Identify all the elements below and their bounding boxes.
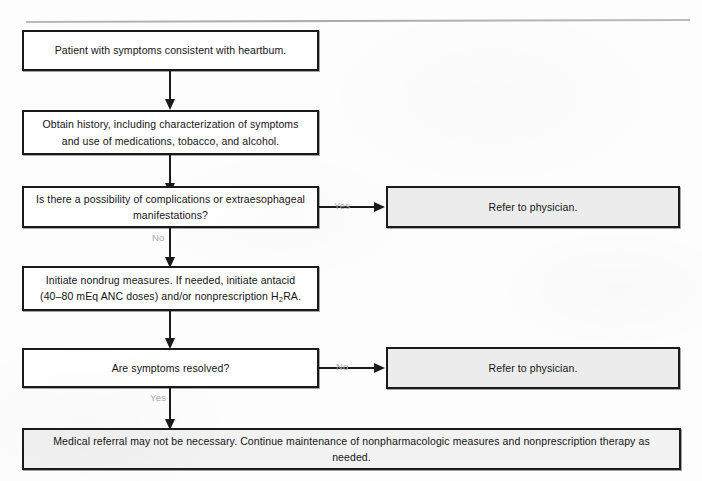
node-refer-physician-2-label: Refer to physician. [479,360,588,376]
node-refer-physician-1: Refer to physician. [386,186,680,228]
node-outcome-no-referral: Medical referral may not be necessary. C… [22,428,681,470]
node-decision-resolved: Are symptoms resolved? [22,348,319,388]
arrow-start-to-history [165,99,175,110]
branch-label-complications-no: No [152,232,165,243]
arrow-resolved-no [374,363,385,373]
top-divider-rule [26,19,690,23]
node-outcome-no-referral-label: Medical referral may not be necessary. C… [24,433,679,466]
branch-label-complications-yes: Yes [334,200,350,211]
node-patient-symptoms-label: Patient with symptoms consistent with he… [45,42,297,58]
node-decision-resolved-label: Are symptoms resolved? [102,360,240,376]
flowchart-figure: Patient with symptoms consistent with he… [0,0,702,481]
node-decision-complications: Is there a possibility of complications … [22,186,319,228]
node-refer-physician-1-label: Refer to physician. [479,199,588,215]
branch-label-resolved-no: No [336,361,349,372]
node-initiate-treatment-label: Initiate nondrug measures. If needed, in… [30,272,311,306]
treatment-line-2-pre: (40–80 mEq ANC doses) and/or nonprescrip… [40,290,279,302]
treatment-line-1: Initiate nondrug measures. If needed, in… [46,274,295,286]
node-patient-symptoms: Patient with symptoms consistent with he… [22,30,319,71]
node-obtain-history: Obtain history, including characterizati… [22,110,319,155]
node-refer-physician-2: Refer to physician. [386,347,680,389]
branch-label-resolved-yes: Yes [150,392,166,403]
treatment-line-2-post: RA. [283,290,301,302]
arrow-complications-yes [374,202,385,212]
node-obtain-history-label: Obtain history, including characterizati… [24,116,317,149]
node-decision-complications-label: Is there a possibility of complications … [24,191,317,224]
connector-resolved-yes [169,388,171,423]
node-initiate-treatment: Initiate nondrug measures. If needed, in… [22,266,319,311]
